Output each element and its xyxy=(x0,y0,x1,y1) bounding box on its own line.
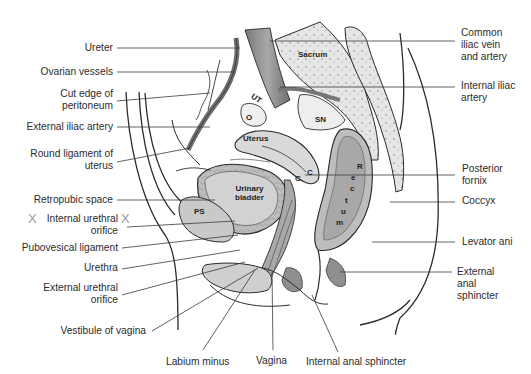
label-text: Internal iliac xyxy=(461,80,515,92)
inline-label-rectum-u: u xyxy=(341,207,346,216)
label-internal-urethral-orifice: Internal urethral orifice xyxy=(47,213,118,237)
label-cut-edge-of-peritoneum: Cut edge of peritoneum xyxy=(60,88,113,112)
label-text: anal xyxy=(457,278,498,290)
label-text: Internal urethral xyxy=(47,213,118,225)
label-text: Retropubic space xyxy=(34,194,113,206)
pelvis-illustration xyxy=(0,0,531,374)
label-round-ligament-of-uterus: Round ligament of uterus xyxy=(30,148,113,172)
label-text: uterus xyxy=(30,160,113,172)
inline-label-text: Urinary xyxy=(235,184,264,193)
label-text: and artery xyxy=(461,51,507,63)
inline-label-rectum-e: e xyxy=(351,173,355,182)
label-text: Coccyx xyxy=(462,195,495,207)
inline-label-urinary-bladder: Urinary bladder xyxy=(235,184,264,202)
label-common-iliac-vein-and-artery: Common iliac vein and artery xyxy=(461,27,507,63)
label-text: Urethra xyxy=(84,262,118,274)
label-text: Vagina xyxy=(256,355,287,367)
inline-label-uterus: Uterus xyxy=(243,134,268,143)
anatomy-figure: Ureter Ovarian vessels Cut edge of perit… xyxy=(0,0,531,374)
label-internal-iliac-artery: Internal iliac artery xyxy=(461,80,515,104)
label-text: Round ligament of xyxy=(30,148,113,160)
label-ureter: Ureter xyxy=(85,42,113,54)
inline-label-rectum-t: t xyxy=(345,196,348,205)
inline-label-o: O xyxy=(246,113,252,122)
x-mark-right: X xyxy=(121,213,130,225)
label-text: iliac vein xyxy=(461,39,507,51)
label-internal-anal-sphincter: Internal anal sphincter xyxy=(306,356,406,368)
label-labium-minus: Labium minus xyxy=(166,356,229,368)
label-pubovesical-ligament: Pubovesical ligament xyxy=(22,242,118,254)
label-retropubic-space: Retropubic space xyxy=(34,194,113,206)
inline-label-cervix-1: C xyxy=(295,174,301,183)
label-external-urethral-orifice: External urethral orifice xyxy=(43,282,118,306)
label-text: Ovarian vessels xyxy=(41,66,113,78)
ovary xyxy=(241,103,266,126)
label-text: sphincter xyxy=(457,290,498,302)
label-text: orifice xyxy=(47,225,118,237)
label-text: Ureter xyxy=(85,42,113,54)
label-text: External urethral xyxy=(43,282,118,294)
label-text: fornix xyxy=(462,175,503,187)
label-posterior-fornix: Posterior fornix xyxy=(462,163,503,187)
inline-label-ps: PS xyxy=(194,207,205,216)
label-text: Posterior xyxy=(462,163,503,175)
inline-label-text: bladder xyxy=(235,193,264,202)
label-vagina: Vagina xyxy=(256,355,287,367)
label-text: Levator ani xyxy=(462,236,512,248)
inline-label-sacrum: Sacrum xyxy=(298,50,327,59)
label-text: Common xyxy=(461,27,507,39)
label-external-iliac-artery: External iliac artery xyxy=(26,121,113,133)
label-text: peritoneum xyxy=(60,100,113,112)
inline-label-rectum-r: R xyxy=(357,162,363,171)
inline-label-cervix-2: C xyxy=(307,168,313,177)
label-levator-ani: Levator ani xyxy=(462,236,512,248)
label-text: Internal anal sphincter xyxy=(306,356,406,368)
label-text: Pubovesical ligament xyxy=(22,242,118,254)
inline-label-rectum-c: c xyxy=(350,184,354,193)
label-text: External xyxy=(457,266,498,278)
label-coccyx: Coccyx xyxy=(462,195,495,207)
inline-label-rectum-m: m xyxy=(336,218,343,227)
label-text: Cut edge of xyxy=(60,88,113,100)
label-text: Labium minus xyxy=(166,356,229,368)
vulva xyxy=(202,263,272,293)
label-urethra: Urethra xyxy=(84,262,118,274)
label-ovarian-vessels: Ovarian vessels xyxy=(41,66,113,78)
label-text: External iliac artery xyxy=(26,121,113,133)
label-vestibule-of-vagina: Vestibule of vagina xyxy=(60,325,146,337)
x-mark-left: X xyxy=(28,213,37,225)
label-external-anal-sphincter: External anal sphincter xyxy=(457,266,498,302)
label-text: orifice xyxy=(43,294,118,306)
anal-canal xyxy=(315,250,320,300)
label-text: Vestibule of vagina xyxy=(60,325,146,337)
inline-label-sn: SN xyxy=(315,115,326,124)
label-text: artery xyxy=(461,92,515,104)
